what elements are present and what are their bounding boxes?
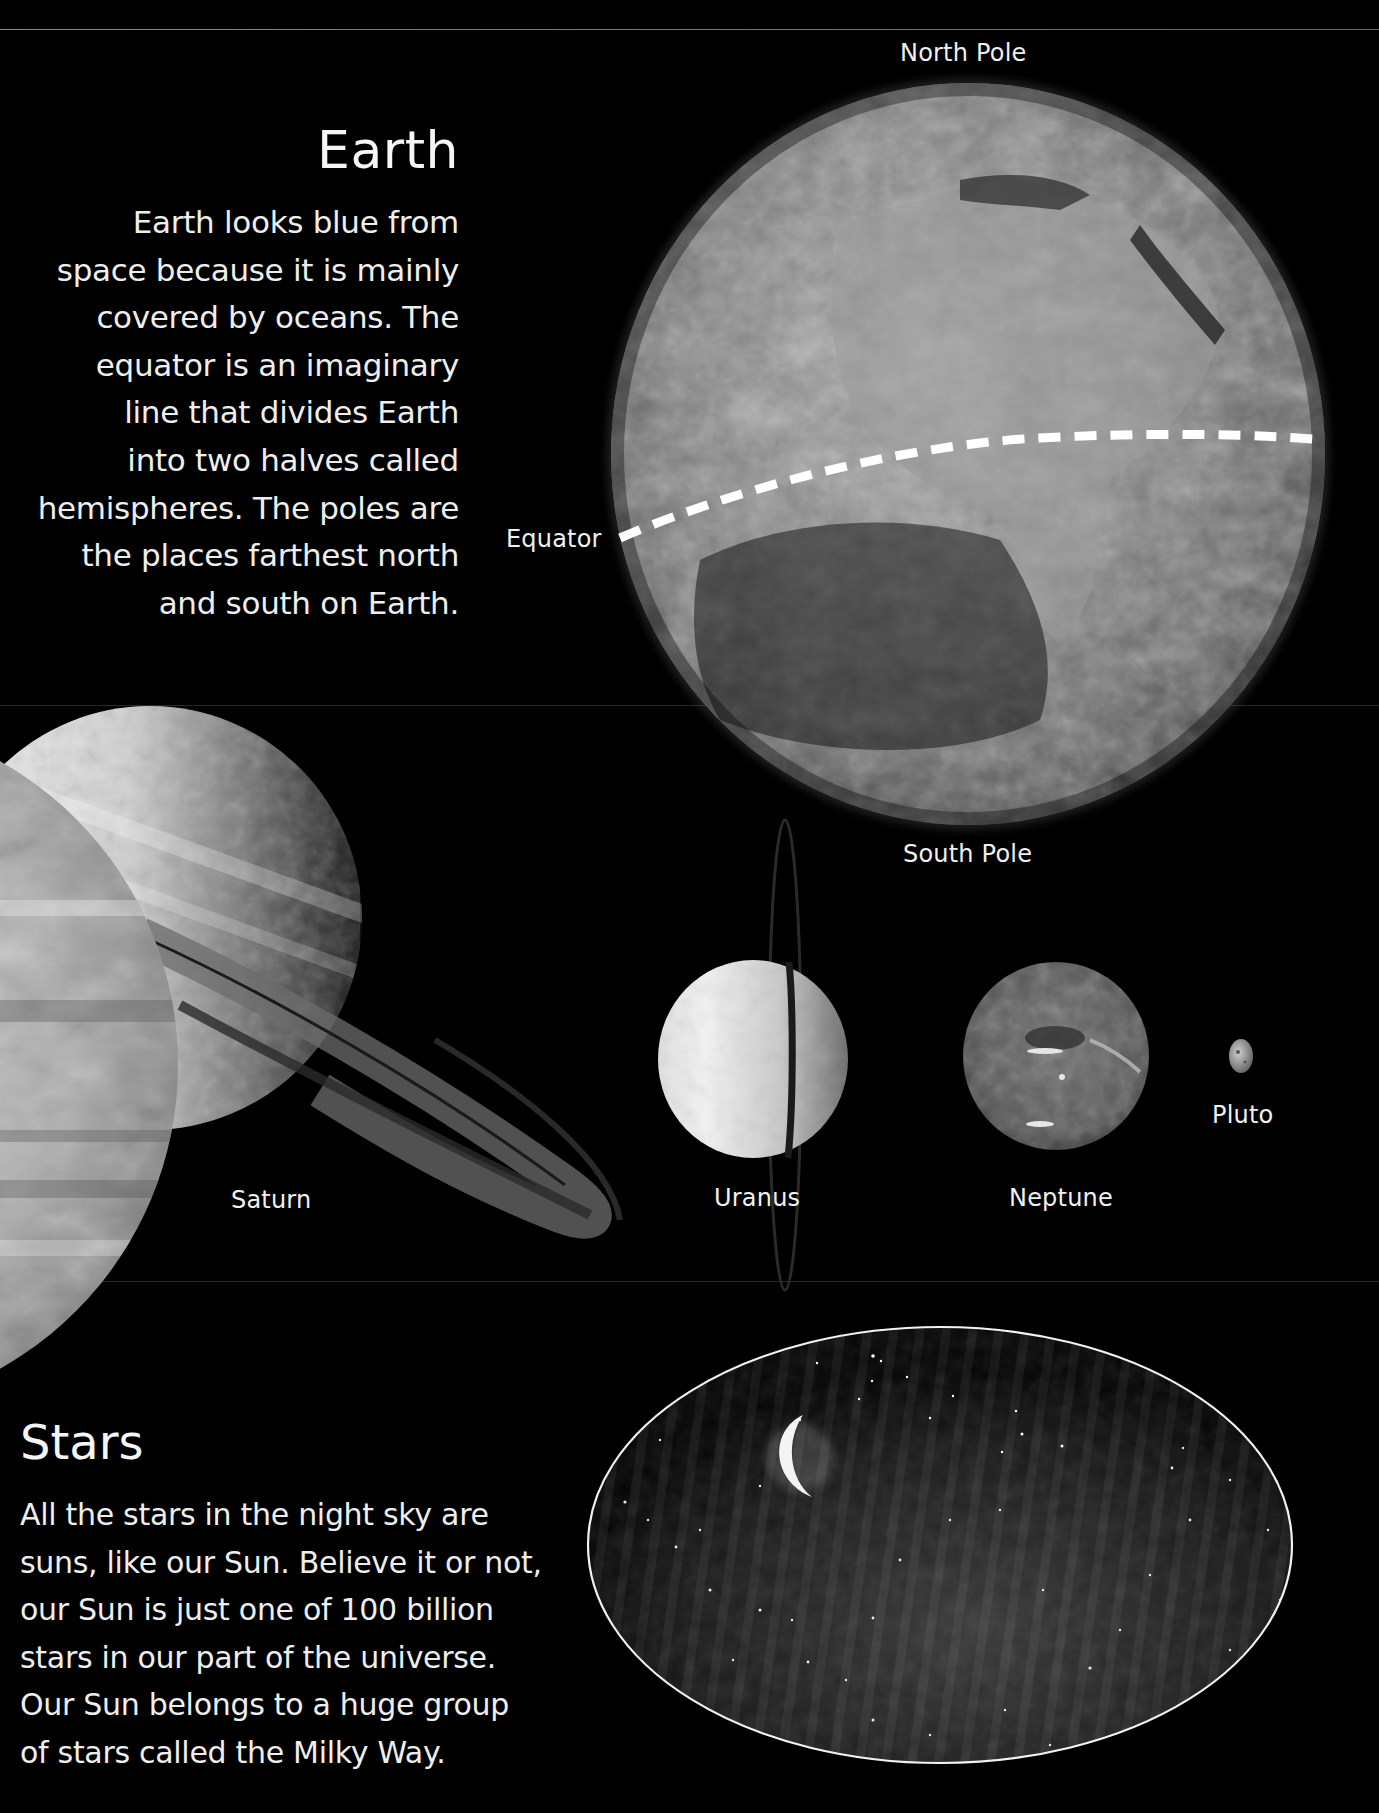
- neptune-planet: [960, 960, 1155, 1155]
- stars-description-line: suns, like our Sun. Believe it or not,: [20, 1539, 580, 1587]
- earth-description-line: space because it is mainly: [0, 247, 459, 295]
- south-pole-label: South Pole: [903, 842, 1032, 866]
- stars-description-line: Our Sun belongs to a huge group: [20, 1681, 580, 1729]
- night-sky-ellipse: {/* additional stars */}: [580, 1320, 1300, 1770]
- uranus-label: Uranus: [714, 1186, 800, 1210]
- earth-description-line: line that divides Earth: [0, 389, 459, 437]
- stars-description-line: of stars called the Milky Way.: [20, 1729, 580, 1777]
- neptune-label: Neptune: [1009, 1186, 1113, 1210]
- stars-description-line: stars in our part of the universe.: [20, 1634, 580, 1682]
- earth-description-line: Earth looks blue from: [0, 199, 459, 247]
- earth-description-line: equator is an imaginary: [0, 342, 459, 390]
- earth-globe: [600, 78, 1340, 830]
- earth-description-line: the places farthest north: [0, 532, 459, 580]
- earth-heading: Earth: [317, 124, 459, 176]
- stars-heading: Stars: [20, 1418, 143, 1466]
- earth-description-line: hemispheres. The poles are: [0, 485, 459, 533]
- pluto-label: Pluto: [1212, 1103, 1273, 1127]
- earth-description: Earth looks blue from space because it i…: [0, 199, 459, 627]
- stars-description-line: our Sun is just one of 100 billion: [20, 1586, 580, 1634]
- equator-label: Equator: [506, 527, 602, 551]
- pluto-planet: [1229, 1039, 1253, 1073]
- earth-description-line: into two halves called: [0, 437, 459, 485]
- stars-description-line: All the stars in the night sky are: [20, 1491, 580, 1539]
- earth-description-line: covered by oceans. The: [0, 294, 459, 342]
- uranus-planet: [655, 820, 850, 1290]
- earth-description-line: and south on Earth.: [0, 580, 459, 628]
- stars-description: All the stars in the night sky are suns,…: [20, 1491, 580, 1776]
- north-pole-label: North Pole: [900, 41, 1027, 65]
- saturn-label: Saturn: [231, 1188, 311, 1212]
